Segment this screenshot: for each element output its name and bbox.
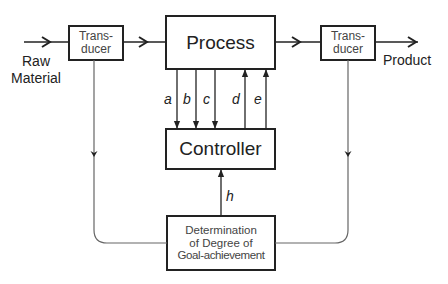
goal-line2: of Degree of (189, 237, 252, 250)
goal-label: Determination of Degree of Goal-achievem… (167, 216, 275, 270)
transducer-in-label: Trans- ducer (69, 26, 123, 60)
goal-line3: Goal-achievement (178, 249, 265, 262)
raw-material-label: Raw Material (6, 53, 66, 87)
transducer-in-line2: ducer (81, 43, 111, 56)
raw-label-line2: Material (6, 70, 66, 87)
signal-b-label: b (183, 91, 191, 107)
raw-label-line1: Raw (6, 53, 66, 70)
transducer-out-line2: ducer (333, 43, 363, 56)
process-label: Process (166, 16, 275, 69)
transducer-out-line1: Trans- (331, 30, 365, 43)
transducer-out-label: Trans- ducer (321, 26, 375, 60)
signal-h-label: h (226, 188, 234, 204)
signal-a-label: a (164, 91, 172, 107)
goal-line1: Determination (185, 224, 257, 237)
transducer-in-line1: Trans- (79, 30, 113, 43)
signal-d-label: d (232, 91, 240, 107)
signal-c-label: c (203, 91, 210, 107)
signal-e-label: e (254, 91, 262, 107)
product-label: Product (383, 52, 431, 68)
controller-label: Controller (166, 129, 275, 169)
